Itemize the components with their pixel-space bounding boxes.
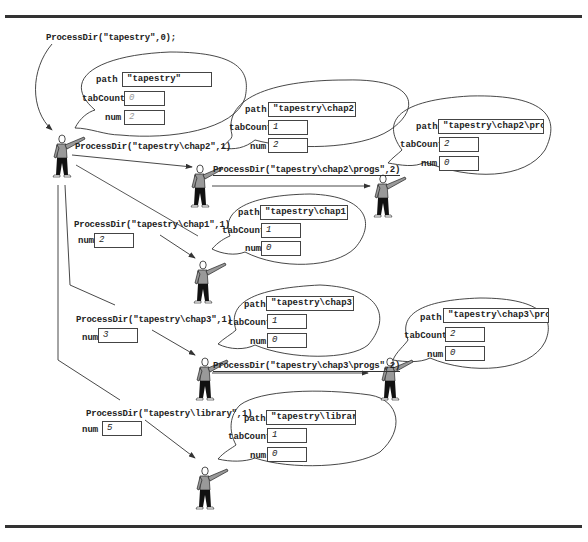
num-label: num — [250, 142, 266, 152]
path-label: path — [244, 414, 266, 424]
path-label: path — [416, 122, 438, 132]
path-value: "tapestry\chap3" — [266, 296, 354, 311]
tabcount-value: 1 — [268, 120, 308, 135]
tabcount-value: 1 — [261, 223, 301, 238]
person-icon-chap2-progs — [374, 175, 406, 217]
tabcount-label: tabCount — [222, 226, 265, 236]
num-label: num — [250, 337, 266, 347]
tabcount-label: tabCount — [400, 140, 443, 150]
num-value: 2 — [268, 138, 308, 153]
path-value: "tapestry\chap1" — [260, 205, 348, 220]
line-to-library-call — [58, 185, 120, 400]
caller-num-value: 2 — [94, 233, 134, 248]
arrow-to-library — [145, 420, 195, 458]
tabcount-value: 1 — [267, 314, 307, 329]
caller-num-label: num — [82, 425, 98, 435]
tabcount-value: 1 — [267, 428, 307, 443]
path-label: path — [96, 75, 118, 85]
tabcount-value: 0 — [124, 91, 165, 106]
num-label: num — [250, 451, 266, 461]
num-label: num — [427, 350, 443, 360]
bubble-library — [218, 391, 396, 466]
tabcount-label: tabCount — [404, 331, 447, 341]
path-label: path — [420, 313, 442, 323]
path-label: path — [244, 300, 266, 310]
num-label: num — [245, 244, 261, 254]
tabcount-label: tabCount — [228, 432, 271, 442]
top-rule — [5, 15, 582, 18]
initial-call-label: ProcessDir("tapestry",0); — [46, 33, 176, 43]
call-label: ProcessDir("tapestry\chap2\progs",2) — [213, 165, 400, 176]
path-value: "tapestry\library" — [266, 410, 356, 425]
path-label: path — [245, 105, 267, 115]
tabcount-value: 2 — [439, 137, 479, 152]
tabcount-label: tabCount — [82, 94, 125, 104]
path-value: "tapestry\chap3\progs" — [443, 308, 549, 323]
num-value: 0 — [439, 156, 479, 171]
path-value: "tapestry\chap2\progs" — [438, 119, 544, 134]
bottom-rule — [5, 525, 582, 528]
num-value: 0 — [261, 241, 301, 256]
caller-num-label: num — [82, 333, 98, 343]
tabcount-label: tabCount — [229, 123, 272, 133]
tabcount-label: tabCount — [228, 318, 271, 328]
num-value: 2 — [124, 110, 165, 125]
call-label: ProcessDir("tapestry\chap1",1) — [74, 220, 230, 230]
num-label: num — [421, 159, 437, 169]
caller-num-label: num — [78, 236, 94, 246]
caller-num-value: 5 — [102, 421, 142, 436]
call-label: ProcessDir("tapestry\chap2",1) — [75, 142, 231, 152]
path-label: path — [238, 208, 260, 218]
caller-num-value: 3 — [98, 328, 138, 343]
path-value: "tapestry\chap2" — [268, 102, 356, 117]
call-label: ProcessDir("tapestry\chap3\progs",2) — [213, 361, 400, 372]
num-label: num — [105, 113, 121, 123]
num-value: 0 — [445, 346, 485, 361]
path-value: "tapestry" — [122, 72, 212, 87]
arrow-to-chap2 — [72, 155, 192, 167]
person-icon-library — [196, 467, 228, 509]
arrow-to-chap1 — [160, 235, 195, 258]
call-label: ProcessDir("tapestry\chap3",1) — [76, 315, 232, 325]
arrow-initial-call — [36, 44, 53, 130]
arrow-to-chap3 — [152, 330, 195, 355]
person-icon-chap1 — [194, 261, 226, 303]
num-value: 0 — [267, 333, 307, 348]
call-label: ProcessDir("tapestry\library",1) — [86, 409, 252, 419]
num-value: 0 — [267, 447, 307, 462]
tabcount-value: 2 — [445, 327, 485, 342]
